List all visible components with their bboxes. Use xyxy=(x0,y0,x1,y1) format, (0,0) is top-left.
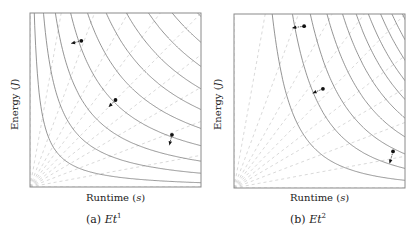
caption-var: Et xyxy=(309,213,321,226)
xlabel-text: Runtime xyxy=(290,192,333,203)
arrowhead-icon xyxy=(313,90,317,93)
contour-curve xyxy=(373,0,413,54)
plot-b-ylabel: Energy (J) xyxy=(212,78,223,130)
contour-curve xyxy=(329,0,413,125)
plot-b-canvas xyxy=(0,0,418,244)
xlabel-unit: s xyxy=(340,192,345,203)
operating-point-marker xyxy=(391,150,395,154)
caption-prefix: (b) xyxy=(290,213,306,226)
plot-area xyxy=(234,0,418,188)
contour-curve xyxy=(267,0,413,181)
operating-point-marker xyxy=(321,87,325,91)
gradient-markers xyxy=(292,24,395,163)
caption-exp: 2 xyxy=(322,212,326,220)
contour-curves xyxy=(267,0,413,181)
ylabel-text: Energy xyxy=(212,94,223,131)
contour-curve xyxy=(316,0,414,142)
contour-curve xyxy=(391,0,413,15)
contour-curve xyxy=(382,0,413,35)
operating-point-marker xyxy=(302,24,306,28)
ylabel-unit: J xyxy=(212,82,223,86)
plot-b-caption: (b) Et2 xyxy=(290,212,326,226)
arrowhead-icon xyxy=(389,159,392,163)
contour-curve xyxy=(363,0,414,72)
plot-b-xlabel: Runtime (s) xyxy=(290,192,349,203)
